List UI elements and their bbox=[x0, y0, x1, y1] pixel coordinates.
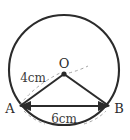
segment-ob bbox=[64, 74, 109, 106]
label-chord-measure: 6cm bbox=[51, 112, 77, 126]
label-point-b: B bbox=[114, 101, 124, 116]
label-point-a: A bbox=[4, 101, 15, 116]
apex-guide-dashed bbox=[69, 66, 88, 73]
label-point-o: O bbox=[59, 56, 70, 71]
geometry-canvas: O A B 4cm 6cm bbox=[0, 0, 130, 140]
vertex-dot-o bbox=[61, 71, 66, 76]
label-radius-measure: 4cm bbox=[20, 71, 46, 85]
geometry-figure: O A B 4cm 6cm bbox=[0, 0, 130, 140]
chord-guide-dashed-right bbox=[84, 111, 106, 124]
